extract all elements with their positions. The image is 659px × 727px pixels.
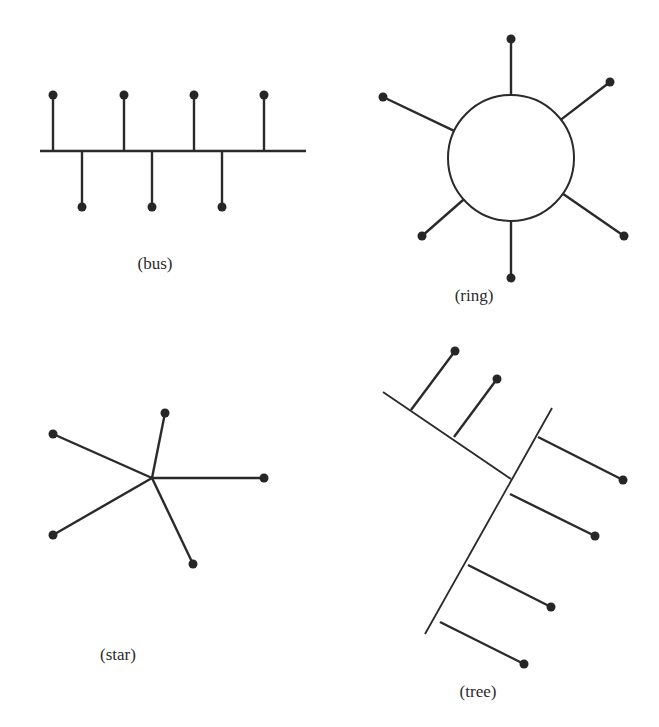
- node-dot: [190, 91, 199, 100]
- ring-spoke: [563, 194, 624, 236]
- tree-label: (tree): [460, 682, 497, 702]
- ring-topology: [379, 35, 629, 283]
- ring-spoke: [422, 200, 464, 236]
- star-spoke: [152, 478, 193, 564]
- star-topology: [49, 409, 269, 569]
- node-dot: [189, 560, 198, 569]
- star-label: (star): [100, 645, 136, 665]
- star-spoke: [152, 413, 165, 478]
- tree-topology: [383, 347, 628, 669]
- star-spoke: [53, 434, 152, 478]
- node-dot: [451, 347, 460, 356]
- node-dot: [520, 660, 529, 669]
- star-spoke: [53, 478, 152, 535]
- node-dot: [78, 203, 87, 212]
- node-dot: [260, 91, 269, 100]
- node-dot: [49, 531, 58, 540]
- tree-branch: [440, 622, 524, 664]
- ring-spoke: [383, 97, 454, 131]
- tree-trunk: [383, 392, 511, 479]
- node-dot: [120, 91, 129, 100]
- bus-label: (bus): [138, 254, 173, 274]
- tree-branch: [538, 437, 623, 480]
- node-dot: [418, 232, 427, 241]
- tree-branch: [468, 565, 551, 607]
- tree-branch: [411, 351, 455, 410]
- bus-topology: [40, 91, 306, 212]
- node-dot: [49, 91, 58, 100]
- ring-circle: [448, 95, 574, 221]
- node-dot: [507, 274, 516, 283]
- node-dot: [606, 78, 615, 87]
- node-dot: [379, 93, 388, 102]
- node-dot: [493, 375, 502, 384]
- node-dot: [161, 409, 170, 418]
- ring-spoke: [561, 82, 610, 120]
- tree-trunk: [425, 408, 552, 634]
- node-dot: [260, 474, 269, 483]
- node-dot: [507, 35, 516, 44]
- node-dot: [148, 203, 157, 212]
- tree-branch: [510, 494, 595, 536]
- tree-branch: [454, 379, 497, 437]
- node-dot: [620, 232, 629, 241]
- node-dot: [218, 203, 227, 212]
- node-dot: [619, 476, 628, 485]
- node-dot: [547, 603, 556, 612]
- node-dot: [591, 532, 600, 541]
- diagram-canvas: [0, 0, 659, 727]
- ring-label: (ring): [455, 286, 494, 306]
- node-dot: [49, 430, 58, 439]
